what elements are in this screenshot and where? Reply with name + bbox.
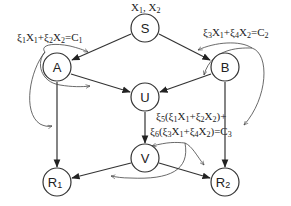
node-v-label: V	[141, 151, 150, 166]
curve-b-top	[198, 43, 252, 50]
edge-v-r1	[72, 163, 131, 178]
node-u: U	[131, 83, 159, 111]
equation-b: ξ3X1+ξ4X2=C2	[203, 26, 268, 40]
curve-b-long	[244, 48, 264, 125]
node-r2: R2	[211, 168, 239, 196]
node-s-label: S	[141, 21, 150, 36]
node-b: B	[211, 53, 239, 81]
node-s: S	[131, 14, 159, 42]
edge-v-r2	[159, 163, 210, 178]
source-label: X1, X2	[131, 1, 160, 15]
equation-v-line1: ξ5(ξ1X1+ξ2X2)+	[156, 110, 226, 124]
node-a: A	[43, 53, 71, 81]
node-u-label: U	[140, 90, 149, 105]
node-v: V	[131, 144, 159, 172]
node-a-label: A	[53, 60, 62, 75]
edge-a-u	[71, 74, 130, 92]
curve-a-top	[44, 44, 88, 52]
equation-a: ξ1X1+ξ2X2=C1	[17, 31, 82, 45]
node-b-label: B	[221, 60, 230, 75]
edge-b-u	[160, 74, 211, 92]
network-coding-diagram: S A B U V R1 R2 X1, X2 ξ1X1+ξ2X2=C1 ξ3X1…	[0, 0, 291, 206]
curve-v-left	[152, 142, 185, 146]
curve-v-right	[185, 143, 204, 165]
node-r1: R1	[43, 168, 71, 196]
equation-v-line2: ξ6(ξ3X1+ξ4X2)=C3	[150, 125, 232, 139]
